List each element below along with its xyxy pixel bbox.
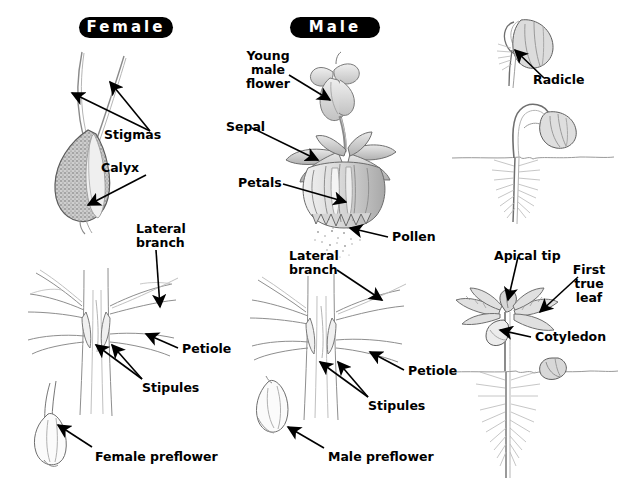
arrow-petiole-left — [146, 334, 178, 348]
female-preflower-art — [34, 381, 66, 466]
label-young-male-flower-line1: Young — [238, 49, 298, 63]
label-petiole-mid: Petiole — [408, 364, 457, 378]
male-flower-art — [286, 52, 396, 259]
label-first-true-leaf-line1: First — [566, 263, 612, 277]
label-male-preflower: Male preflower — [328, 450, 434, 464]
arrow-stipules-mid-a — [320, 362, 368, 397]
label-young-male-flower-line2: male — [238, 63, 298, 77]
label-young-male-flower-line3: flower — [238, 77, 298, 91]
label-stipules-left: Stipules — [142, 381, 199, 395]
label-first-true-leaf-line3: leaf — [566, 291, 612, 305]
label-cotyledon: Cotyledon — [535, 330, 606, 344]
label-female-preflower: Female preflower — [95, 450, 218, 464]
arrow-stipules-mid-b — [338, 362, 368, 397]
label-first-true-leaf-line2: true — [566, 277, 612, 291]
arrow-cotyledon — [500, 330, 531, 337]
arrow-stigmas-right — [110, 82, 150, 131]
arrow-pollen — [350, 228, 388, 237]
arrow-stipules-left-b — [112, 345, 142, 379]
label-lateral-branch-left-line1: Lateral — [136, 222, 186, 236]
arrow-stipules-left-a — [96, 345, 142, 379]
seedling-art — [452, 288, 618, 478]
arrow-calyx — [88, 175, 146, 205]
label-apical-tip: Apical tip — [494, 249, 561, 263]
arrow-apical-tip — [508, 257, 518, 300]
badge-male: Male — [290, 17, 380, 38]
label-stipules-mid: Stipules — [368, 399, 425, 413]
label-petals: Petals — [238, 176, 282, 190]
arrow-petiole-mid — [370, 352, 404, 370]
label-radicle: Radicle — [533, 73, 584, 87]
botanical-diagram: Female Male Stigmas Calyx Lateral branch… — [0, 0, 621, 483]
label-lateral-branch-mid-line2: branch — [289, 263, 338, 277]
arrow-lateral-branch-left — [156, 250, 160, 307]
label-petiole-left: Petiole — [182, 342, 231, 356]
label-lateral-branch-mid-line1: Lateral — [289, 249, 339, 263]
arrow-male-preflower — [288, 427, 324, 448]
arrow-lateral-branch-mid — [337, 270, 382, 300]
label-sepal: Sepal — [226, 120, 265, 134]
leader-arrows — [0, 0, 621, 483]
illustration-artwork — [0, 0, 621, 483]
male-preflower-art — [256, 376, 288, 433]
label-lateral-branch-left-line2: branch — [136, 236, 185, 250]
arrow-petals — [283, 184, 346, 202]
female-flower-art — [55, 52, 126, 234]
label-pollen: Pollen — [392, 230, 436, 244]
arrow-stigmas-left — [72, 93, 150, 131]
arrow-female-preflower — [58, 425, 92, 447]
sprout-art — [452, 104, 614, 224]
label-calyx: Calyx — [101, 161, 139, 175]
label-stigmas: Stigmas — [104, 128, 161, 142]
badge-female: Female — [79, 17, 173, 38]
